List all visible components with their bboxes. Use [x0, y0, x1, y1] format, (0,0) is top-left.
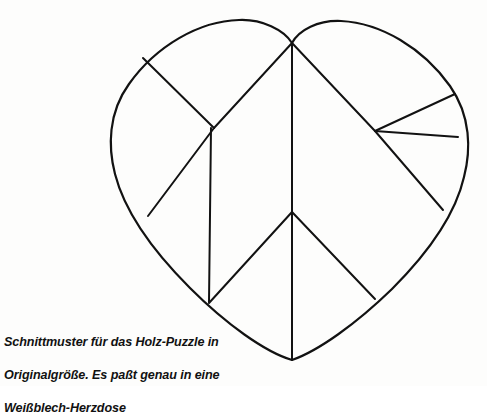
cut-upper-left-arc-to-left-node — [143, 58, 214, 128]
cut-cleft-to-right-node — [292, 43, 375, 131]
caption-line-2: Originalgröße. Es paßt genau in eine — [4, 367, 274, 383]
caption-line-3: Weißblech-Herzdose — [4, 400, 274, 416]
caption-line-1: Schnittmuster für das Holz-Puzzle in — [4, 334, 274, 350]
cut-left-node-to-left-arc — [148, 128, 214, 216]
cut-lines-group — [143, 43, 458, 360]
cut-right-node-to-lower-right-arc — [375, 131, 443, 210]
figure-caption: Schnittmuster für das Holz-Puzzle in Ori… — [4, 318, 274, 416]
cut-center-node-to-left-arc — [209, 212, 292, 303]
cut-left-node-vertical-down — [209, 128, 211, 302]
cut-cleft-to-left-node — [214, 43, 292, 128]
cut-center-node-to-right-arc — [292, 212, 375, 299]
heart-outline-path — [111, 20, 468, 360]
cut-right-node-spoke-horizontal — [375, 131, 458, 137]
cut-right-node-spoke-upper — [375, 94, 455, 131]
